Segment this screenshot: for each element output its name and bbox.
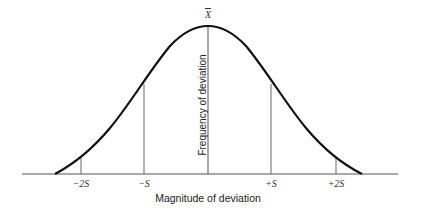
x-axis-label: Magnitude of deviation [155, 192, 261, 204]
tick-minus-1s: −S [138, 178, 150, 189]
tick-plus-1s: +S [265, 178, 277, 189]
tick-plus-2s: +2S [328, 178, 345, 189]
tick-minus-2s: −2S [73, 178, 90, 189]
mean-label: X [205, 9, 211, 20]
normal-curve-diagram [0, 0, 423, 214]
y-axis-label: Frequency of deviation [197, 54, 208, 155]
